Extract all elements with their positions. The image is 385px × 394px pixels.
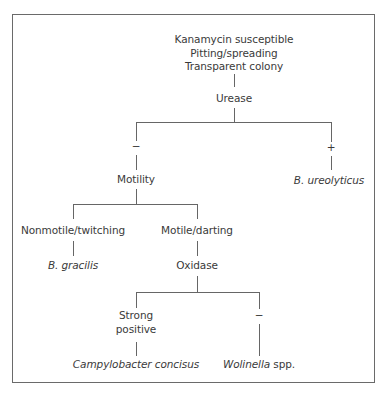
sign-urease-negative: − (132, 140, 141, 154)
test-urease: Urease (216, 92, 252, 106)
connector-urease-neg-top (136, 122, 137, 141)
connector-motile-oxidase (197, 241, 198, 256)
root-line-pitting: Pitting/spreading (175, 47, 294, 61)
genus: Wolinella (223, 358, 270, 370)
connector-motile (197, 204, 198, 219)
root-line-transparent: Transparent colony (175, 60, 294, 74)
result-b-ureolyticus: B. ureolyticus (294, 174, 364, 188)
motility-motile-darting: Motile/darting (161, 224, 233, 238)
root-line-kanamycin: Kanamycin susceptible (175, 33, 294, 47)
connector-nonmotile-result (73, 241, 74, 256)
genus: B. (48, 259, 58, 271)
sign-urease-positive: + (327, 141, 336, 155)
connector-urease-pos-bottom (331, 156, 332, 170)
connector-urease-pos-top (331, 122, 332, 142)
strong-line: Strong (116, 309, 156, 323)
root-criteria: Kanamycin susceptible Pitting/spreading … (175, 33, 294, 74)
suffix: spp. (270, 358, 295, 370)
test-oxidase: Oxidase (176, 259, 218, 273)
result-b-gracilis: B. gracilis (48, 259, 98, 273)
connector-urease-neg-bottom (136, 155, 137, 170)
motility-nonmotile-twitching: Nonmotile/twitching (21, 224, 125, 238)
branch-urease (136, 122, 332, 123)
connector-oxidase-neg-top (259, 292, 260, 309)
positive-line: positive (116, 323, 156, 337)
connector-strong-bottom (136, 342, 137, 356)
species: ureolyticus (307, 174, 364, 186)
connector-oxidase-down (197, 276, 198, 292)
connector-nonmotile (73, 204, 74, 219)
branch-motility (73, 204, 198, 205)
connector-motility-down (136, 189, 137, 204)
branch-oxidase (136, 292, 260, 293)
connector-strong-top (136, 292, 137, 308)
result-wolinella-spp: Wolinella spp. (223, 358, 295, 372)
connector-urease-down (234, 108, 235, 123)
genus: B. (294, 174, 304, 186)
result-campylobacter-concisus: Campylobacter concisus (73, 358, 199, 372)
sign-oxidase-negative: − (255, 309, 264, 323)
oxidase-strong-positive: Strong positive (116, 309, 156, 336)
species: gracilis (61, 259, 98, 271)
test-motility: Motility (117, 173, 155, 187)
connector-root-urease (234, 74, 235, 87)
connector-oxidase-neg-bottom (259, 324, 260, 356)
